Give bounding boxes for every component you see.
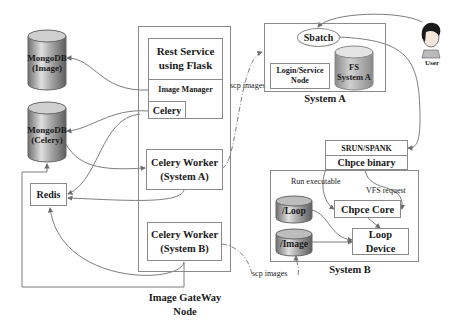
celery-worker-a-box: Celery Worker (System A) [146, 149, 223, 190]
login-service-node-box: Login/Service Node [270, 63, 330, 89]
image-volume-label: /Image [274, 239, 314, 250]
rest-service-label: Rest Service [157, 45, 215, 59]
login-node-sublabel: Node [291, 76, 309, 86]
worker-a-sublabel: (System A) [160, 170, 209, 184]
mongodb-celery-sublabel: (Celery) [24, 135, 70, 145]
gateway-label-line1: Image GateWay [140, 291, 230, 305]
system-a-label: System A [295, 93, 355, 104]
mongodb-celery-label: MongoDB [24, 125, 70, 135]
worker-b-label: Celery Worker [151, 228, 218, 242]
worker-b-sublabel: (System B) [160, 242, 209, 256]
login-node-label: Login/Service [276, 66, 323, 76]
loop-device-label: Loop [369, 228, 392, 241]
srun-spank-box: SRUN/SPANK [325, 140, 408, 156]
mongodb-image-sublabel: (Image) [24, 63, 70, 73]
mongodb-celery: MongoDB (Celery) [24, 125, 70, 146]
srun-spank-label: SRUN/SPANK [341, 144, 392, 153]
mongodb-image: MongoDB (Image) [24, 53, 70, 74]
user-icon [416, 20, 446, 60]
image-manager-label: Image Manager [158, 85, 212, 94]
system-b-label: System B [320, 264, 380, 275]
redis-box: Redis [30, 183, 67, 206]
redis-label: Redis [37, 189, 61, 200]
fs-sublabel: System A [333, 73, 375, 83]
fs-system-a: FS System A [333, 63, 375, 83]
loop-device-box: Loop Device [352, 228, 409, 255]
sbatch-ellipse: Sbatch [297, 28, 340, 47]
chpce-binary-box: Chpce binary [325, 155, 408, 170]
rest-service-box: Rest Service using Flask [148, 38, 223, 80]
loop-volume-label: /Loop [276, 206, 312, 217]
run-executable-label: Run executable [291, 177, 341, 186]
image-gateway-node-label: Image GateWay Node [140, 291, 230, 318]
scp-images-label-a: scp images [230, 81, 265, 90]
user-label: User [420, 59, 444, 67]
rest-service-sublabel: using Flask [159, 59, 213, 73]
gateway-label-line2: Node [140, 305, 230, 319]
mongodb-image-label: MongoDB [24, 53, 70, 63]
worker-a-label: Celery Worker [151, 156, 218, 170]
celery-box: Celery [148, 101, 186, 119]
sbatch-label: Sbatch [304, 32, 333, 43]
chpce-core-label: Chpce Core [341, 204, 394, 215]
loop-device-sublabel: Device [366, 242, 396, 255]
celery-label: Celery [153, 105, 181, 116]
vfs-request-label: VFS request [366, 186, 406, 195]
chpce-binary-label: Chpce binary [337, 157, 395, 168]
scp-images-label-b: scp images [252, 269, 287, 278]
celery-worker-b-box: Celery Worker (System B) [147, 222, 222, 261]
chpce-core-box: Chpce Core [334, 200, 401, 218]
